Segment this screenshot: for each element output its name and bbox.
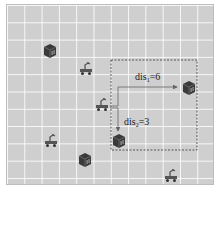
shelf-icon	[77, 152, 93, 168]
robot-icon	[43, 132, 59, 148]
arrow-dis1	[110, 87, 177, 106]
shelf-icon	[42, 43, 58, 59]
distance-label-2: dis2=3	[124, 117, 149, 128]
robot-icon	[163, 167, 179, 183]
robot-icon	[94, 96, 110, 112]
shelf-icon	[111, 133, 127, 149]
distance-label-1: dis1=6	[135, 72, 160, 83]
shelf-icon	[181, 80, 197, 96]
robot-icon	[78, 60, 94, 76]
